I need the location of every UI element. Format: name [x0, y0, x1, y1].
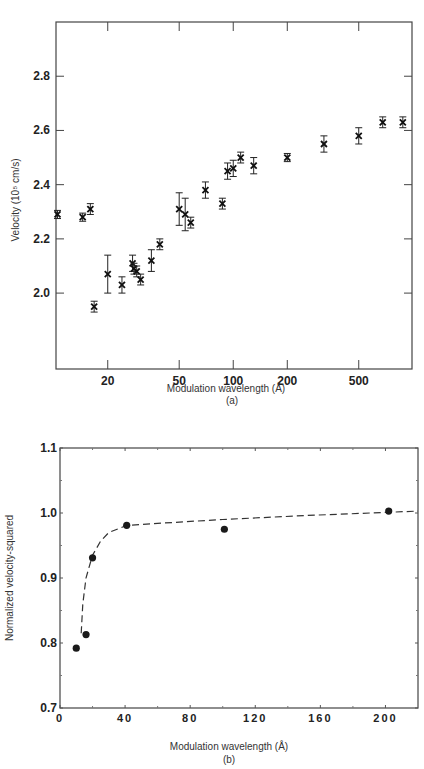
data-point-b — [385, 507, 392, 514]
x-tick-label-a: 20 — [101, 374, 115, 388]
plot-frame-a — [56, 22, 412, 369]
data-point-a — [237, 152, 244, 163]
data-point-a — [156, 239, 163, 250]
y-tick-label-a: 2.2 — [33, 232, 50, 246]
y-tick-label-a: 2.8 — [33, 69, 50, 83]
data-point-a — [118, 277, 125, 293]
y-tick-label-b: 0.8 — [40, 636, 57, 650]
x-tick-label-b: 160 — [308, 712, 332, 724]
data-point-a — [320, 136, 327, 152]
y-axis-title-a: Velocity (10⁵ cm/s) — [10, 158, 21, 241]
data-point-b — [73, 645, 80, 652]
data-point-a — [79, 213, 86, 221]
panel-caption-b: (b) — [223, 754, 235, 765]
data-points-a — [54, 117, 406, 312]
data-point-b — [123, 522, 130, 529]
data-point-a — [54, 210, 61, 218]
x-axis-ticks-b: 04080120160200 — [56, 448, 398, 724]
panel-caption-a: (a) — [226, 395, 238, 406]
data-point-a — [219, 198, 226, 209]
x-tick-label-b: 0 — [56, 712, 64, 724]
data-point-a — [355, 128, 362, 144]
y-tick-label-b: 1.0 — [40, 506, 57, 520]
x-tick-label-b: 80 — [182, 712, 198, 724]
data-point-a — [182, 198, 189, 231]
data-point-a — [187, 217, 194, 228]
chart-panel-a: 2.02.22.42.62.8 2050100200500 Velocity (… — [10, 22, 412, 406]
data-point-a — [176, 193, 183, 226]
y-axis-ticks-a: 2.02.22.42.62.8 — [33, 69, 412, 300]
x-tick-label-a: 500 — [349, 374, 369, 388]
data-point-a — [284, 153, 291, 161]
x-tick-label-b: 40 — [117, 712, 133, 724]
y-tick-label-a: 2.6 — [33, 123, 50, 137]
y-tick-label-b: 0.9 — [40, 571, 57, 585]
data-point-a — [137, 274, 144, 285]
y-axis-title-b: Normalized velocity-squared — [4, 515, 15, 641]
x-axis-title-b: Modulation wavelength (Å) — [170, 740, 288, 752]
x-tick-label-b: 200 — [373, 712, 397, 724]
data-point-a — [148, 250, 155, 272]
y-axis-ticks-b: 0.70.80.91.01.1 — [40, 441, 418, 715]
data-point-a — [91, 301, 98, 312]
data-point-b — [89, 554, 96, 561]
figure-canvas: 2.02.22.42.62.8 2050100200500 Velocity (… — [0, 0, 424, 769]
plot-frame-b — [60, 448, 418, 708]
x-axis-title-a: Modulation wavelength (Å) — [167, 382, 285, 394]
data-point-a — [399, 117, 406, 128]
data-point-b — [221, 526, 228, 533]
y-tick-label-a: 2.0 — [33, 286, 50, 300]
data-points-b — [73, 507, 393, 651]
data-point-a — [379, 117, 386, 128]
x-axis-ticks-a: 2050100200500 — [101, 22, 369, 388]
data-point-a — [87, 204, 94, 215]
x-tick-label-b: 120 — [243, 712, 267, 724]
y-tick-label-b: 1.1 — [40, 441, 57, 455]
data-point-a — [250, 158, 257, 174]
chart-panel-b: 0.70.80.91.01.1 04080120160200 Normalize… — [4, 441, 418, 765]
y-tick-label-b: 0.7 — [40, 701, 57, 715]
data-point-a — [202, 182, 209, 198]
data-point-a — [104, 255, 111, 293]
fit-curve-dashed — [81, 511, 418, 633]
y-tick-label-a: 2.4 — [33, 178, 50, 192]
data-point-b — [82, 631, 89, 638]
